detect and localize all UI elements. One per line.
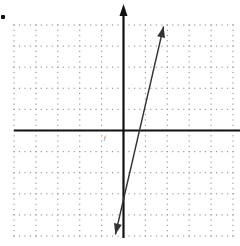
svg-text:f: f bbox=[104, 134, 107, 142]
coordinate-plane: f bbox=[0, 0, 240, 246]
axes bbox=[14, 4, 240, 238]
annotations: f bbox=[104, 134, 107, 142]
